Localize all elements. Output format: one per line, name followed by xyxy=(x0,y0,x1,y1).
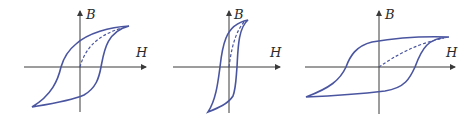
b-axis-label: B xyxy=(85,7,96,22)
h-axis-label: H xyxy=(135,45,148,60)
panel-2: B H xyxy=(173,7,282,113)
h-axis-label: H xyxy=(445,45,458,60)
initial-magnetization-curve xyxy=(379,38,444,67)
hysteresis-loop xyxy=(208,20,248,112)
panel-3: B H xyxy=(305,7,458,114)
b-axis-label: B xyxy=(384,7,395,22)
h-axis-label: H xyxy=(269,45,282,60)
hysteresis-figure: B H B H B H xyxy=(0,0,476,119)
b-axis-label: B xyxy=(233,7,244,22)
hysteresis-diagrams: B H B H B H xyxy=(0,0,476,119)
initial-magnetization-curve xyxy=(80,28,122,67)
panel-1: B H xyxy=(24,7,148,112)
